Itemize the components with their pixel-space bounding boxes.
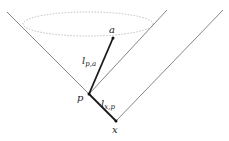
point-x-marker <box>115 120 118 123</box>
cone-cross-section-ellipse <box>23 12 153 36</box>
outer-cone-right-edge <box>116 10 223 121</box>
label-a: a <box>109 24 115 35</box>
label-p: p <box>77 92 84 103</box>
light-cone-diagram: a p x lp,a lx,p <box>0 0 229 141</box>
cone-left-edge <box>7 12 89 94</box>
point-a-marker <box>112 37 115 40</box>
cone-right-edge <box>89 10 167 94</box>
point-p-marker <box>88 93 91 96</box>
label-x: x <box>112 124 118 135</box>
label-l-pa: lp,a <box>82 55 96 68</box>
